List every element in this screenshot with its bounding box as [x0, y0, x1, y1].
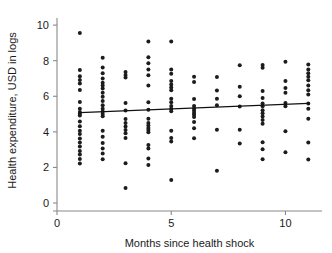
data-point: [101, 103, 105, 107]
data-point: [261, 66, 265, 70]
data-point: [169, 39, 173, 43]
data-point: [78, 120, 82, 124]
data-point: [78, 88, 82, 92]
data-point: [306, 63, 310, 67]
data-point: [78, 31, 82, 35]
data-points-group: [78, 31, 310, 190]
data-point: [306, 84, 310, 88]
data-point: [192, 126, 196, 130]
data-point: [101, 71, 105, 75]
data-point: [306, 117, 310, 121]
data-point: [261, 89, 265, 93]
x-axis-title: Months since health shock: [125, 237, 255, 249]
data-point: [78, 137, 82, 141]
data-point: [124, 75, 128, 79]
data-point: [283, 86, 287, 90]
x-tick-label: 10: [279, 217, 291, 229]
data-point: [146, 73, 150, 77]
data-point: [101, 152, 105, 156]
data-point: [192, 136, 196, 140]
data-point: [261, 140, 265, 144]
data-point: [169, 68, 173, 72]
data-point: [78, 157, 82, 161]
data-point: [215, 89, 219, 93]
data-point: [78, 78, 82, 82]
data-point: [101, 76, 105, 80]
data-point: [146, 130, 150, 134]
data-point: [101, 141, 105, 145]
data-point: [78, 100, 82, 104]
data-point: [101, 91, 105, 95]
data-point: [169, 97, 173, 101]
y-tick-label: 0: [43, 197, 49, 209]
data-point: [146, 147, 150, 151]
data-point: [306, 92, 310, 96]
data-point: [124, 125, 128, 129]
data-point: [169, 136, 173, 140]
data-point: [78, 149, 82, 153]
data-point: [306, 158, 310, 162]
y-axis-title: Health expenditure, USD in logs: [6, 32, 18, 189]
scatter-plot-figure: 0246810 0510 Months since health shock H…: [0, 0, 332, 253]
data-point: [146, 84, 150, 88]
data-point: [146, 61, 150, 65]
data-point: [78, 153, 82, 157]
data-point: [101, 56, 105, 60]
data-point: [124, 131, 128, 135]
data-point: [146, 55, 150, 59]
data-point: [146, 68, 150, 72]
data-point: [192, 75, 196, 79]
data-point: [283, 91, 287, 95]
data-point: [146, 117, 150, 121]
x-axis-group: 0510: [53, 211, 322, 229]
data-point: [124, 136, 128, 140]
data-point: [238, 128, 242, 132]
data-point: [261, 96, 265, 100]
data-point: [169, 72, 173, 76]
data-point: [169, 129, 173, 133]
data-point: [306, 75, 310, 79]
data-point: [306, 71, 310, 75]
data-point: [78, 124, 82, 128]
plot-canvas: 0246810 0510 Months since health shock H…: [0, 0, 332, 253]
data-point: [215, 97, 219, 101]
data-point: [124, 101, 128, 105]
data-point: [306, 68, 310, 72]
data-point: [261, 115, 265, 119]
data-point: [78, 113, 82, 117]
data-point: [306, 141, 310, 145]
data-point: [261, 147, 265, 151]
y-tick-label: 8: [43, 55, 49, 67]
data-point: [283, 150, 287, 154]
y-axis-group: 0246810: [37, 18, 57, 211]
data-point: [78, 141, 82, 145]
data-point: [146, 163, 150, 167]
data-point: [238, 85, 242, 89]
data-point: [215, 75, 219, 79]
x-tick-group: 0510: [54, 211, 292, 229]
data-point: [169, 88, 173, 92]
data-point: [146, 143, 150, 147]
data-point: [238, 142, 242, 146]
data-point: [283, 129, 287, 133]
data-point: [238, 94, 242, 98]
y-tick-group: 0246810: [37, 19, 57, 209]
data-point: [261, 118, 265, 122]
data-point: [192, 97, 196, 101]
data-point: [78, 81, 82, 85]
data-point: [101, 114, 105, 118]
data-point: [238, 63, 242, 67]
x-tick-label: 5: [168, 217, 174, 229]
data-point: [101, 65, 105, 69]
y-tick-label: 6: [43, 90, 49, 102]
data-point: [261, 157, 265, 161]
y-tick-label: 2: [43, 161, 49, 173]
data-point: [146, 100, 150, 104]
data-point: [192, 115, 196, 119]
data-point: [78, 144, 82, 148]
data-point: [78, 74, 82, 78]
data-point: [169, 178, 173, 182]
data-point: [101, 135, 105, 139]
data-point: [124, 161, 128, 165]
data-point: [283, 79, 287, 83]
